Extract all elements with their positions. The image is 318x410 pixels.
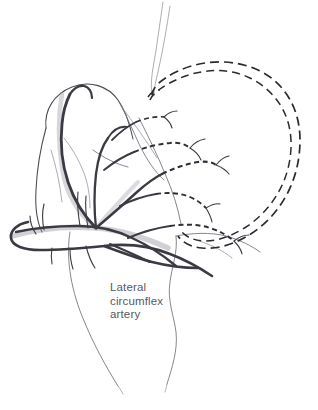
artery-shading: [12, 94, 168, 248]
label-line-1: Lateral: [110, 281, 146, 293]
label-line-2: circumflex: [110, 295, 163, 307]
acetabular-dashed-arc: [148, 71, 291, 241]
anatomy-drawing: [0, 0, 318, 410]
anatomical-illustration-figure: Lateral circumflex artery: [0, 0, 318, 410]
label-lateral-circumflex-artery: Lateral circumflex artery: [110, 281, 163, 322]
label-line-3: artery: [110, 308, 140, 320]
femoral-head-dashed-arc: [152, 62, 300, 248]
